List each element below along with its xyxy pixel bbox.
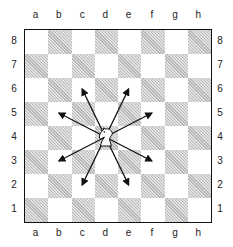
arrow-to-b5: [59, 113, 106, 137]
arrow-to-b3: [59, 137, 106, 161]
knight-move-arrows: [0, 0, 233, 247]
arrow-to-f3: [105, 137, 152, 161]
white-knight-icon: [99, 128, 112, 146]
arrow-to-c6: [82, 89, 105, 137]
